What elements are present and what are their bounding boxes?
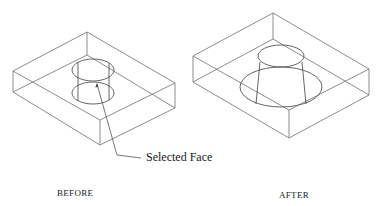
before-bottom-edges (13, 92, 175, 145)
before-hidden-edges (13, 55, 175, 108)
after-hole-top-ellipse (258, 45, 304, 67)
diagram-canvas (0, 0, 377, 206)
before-part (13, 32, 175, 158)
leader-line (97, 84, 141, 158)
selected-face-label: Selected Face (146, 150, 212, 165)
after-top-face (193, 13, 369, 110)
before-cylindrical-hole (72, 59, 114, 104)
leader-arrowhead-icon (95, 83, 98, 88)
after-part (193, 13, 369, 138)
selected-face-leader (95, 83, 141, 158)
after-conical-hole (240, 45, 322, 107)
after-hole-bottom-ellipse (240, 67, 322, 107)
before-caption: BEFORE (57, 188, 93, 198)
after-hole-left-silhouette (256, 62, 260, 104)
after-caption: AFTER (279, 190, 309, 200)
after-hole-right-silhouette (302, 62, 306, 104)
after-bottom-edges (193, 82, 369, 138)
